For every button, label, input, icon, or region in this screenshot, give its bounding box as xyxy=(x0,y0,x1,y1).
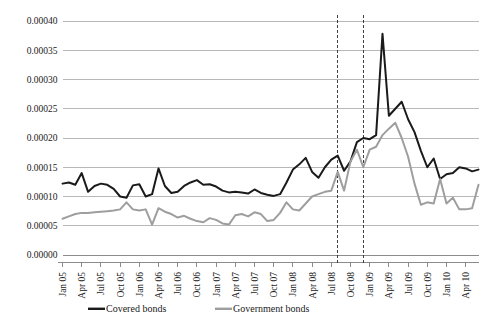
y-axis-tick-label: 0.00010 xyxy=(27,192,58,202)
x-axis-tickmarks xyxy=(63,263,466,268)
x-axis-tick-label: Apr 05 xyxy=(77,272,87,299)
y-axis-tick-label: 0.00040 xyxy=(27,16,58,26)
x-axis-tick-label: Jan 05 xyxy=(58,272,68,297)
x-axis-tick-label: Oct 07 xyxy=(269,272,279,298)
chart-legend: Covered bondsGovernment bonds xyxy=(88,303,309,314)
series-line-covered-bonds xyxy=(63,34,479,198)
y-axis-tick-label: 0.00020 xyxy=(27,133,58,143)
x-axis-tick-label: Jul 05 xyxy=(96,272,106,295)
y-axis-tick-labels: 0.000000.000050.000100.000150.000200.000… xyxy=(27,16,58,260)
x-axis-tick-label: Apr 06 xyxy=(154,272,164,299)
y-axis-tick-label: 0.00025 xyxy=(27,104,58,114)
line-chart: 0.000000.000050.000100.000150.000200.000… xyxy=(0,0,499,326)
legend-label-0: Covered bonds xyxy=(106,303,166,314)
chart-figure: 0.000000.000050.000100.000150.000200.000… xyxy=(0,0,499,326)
x-axis-tick-labels: Jan 05Apr 05Jul 05Oct 05Jan 06Apr 06Jul … xyxy=(58,272,471,299)
x-axis-tick-label: Apr 07 xyxy=(231,272,241,299)
y-axis-tick-label: 0.00000 xyxy=(27,250,58,260)
x-axis-tick-label: Jul 06 xyxy=(173,272,183,295)
x-axis-tick-label: Jul 07 xyxy=(250,272,260,295)
x-axis-tick-label: Apr 09 xyxy=(384,272,394,299)
x-axis-tick-label: Oct 09 xyxy=(423,272,433,298)
x-axis-tick-label: Apr 10 xyxy=(461,272,471,299)
x-axis-tick-label: Jan 07 xyxy=(212,272,222,297)
x-axis-tick-label: Apr 08 xyxy=(308,272,318,299)
y-axis-tick-label: 0.00035 xyxy=(27,46,58,56)
y-axis-tick-label: 0.00015 xyxy=(27,163,58,173)
x-axis-tick-label: Jul 09 xyxy=(404,272,414,295)
x-axis-tick-label: Jan 08 xyxy=(288,272,298,297)
y-axis-tick-label: 0.00030 xyxy=(27,75,58,85)
y-axis-tick-label: 0.00005 xyxy=(27,221,58,231)
x-axis-tick-label: Oct 08 xyxy=(346,272,356,298)
x-axis-tick-label: Oct 06 xyxy=(192,272,202,298)
x-axis-tick-label: Jan 09 xyxy=(365,272,375,297)
legend-label-1: Government bonds xyxy=(233,303,309,314)
x-axis-tick-label: Oct 05 xyxy=(116,272,126,298)
x-axis-tick-label: Jan 10 xyxy=(442,272,452,297)
event-marker-lines xyxy=(338,15,364,263)
data-series xyxy=(63,34,479,225)
x-axis-tick-label: Jul 08 xyxy=(327,272,337,295)
x-axis-tick-label: Jan 06 xyxy=(135,272,145,297)
